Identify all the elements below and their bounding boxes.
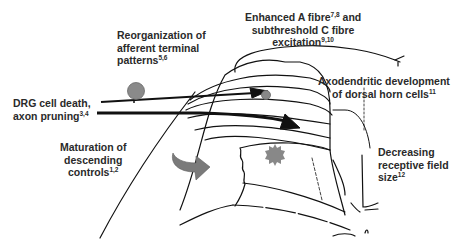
label-receptive-field: Decreasing receptive field size12 (378, 146, 449, 184)
label-line: excitation (272, 36, 321, 48)
label-line: size (378, 171, 398, 183)
label-axodendritic: Axodendritic development of dorsal horn … (318, 75, 450, 100)
label-drg-cell-death: DRG cell death, axon pruning3,4 (13, 97, 91, 122)
label-line: Axodendritic development (318, 75, 450, 88)
superficial-lamina-outline (235, 46, 400, 72)
label-line: and (340, 11, 362, 23)
label-line: descending (60, 154, 127, 167)
citation-superscript: 12 (398, 171, 405, 178)
citation-superscript: 3,4 (80, 110, 89, 117)
citation-superscript: 1,2 (109, 166, 118, 173)
label-line: controls (68, 166, 109, 178)
drg-cell-body (128, 83, 145, 100)
citation-superscript: 7,8 (331, 11, 340, 18)
afferent-fibre-a (101, 93, 255, 102)
terminal-marker (262, 91, 271, 100)
label-enhanced-fibre: Enhanced A fibre7,8 and subthreshold C f… (245, 11, 361, 49)
label-line: Enhanced A fibre (245, 11, 331, 23)
label-line: receptive field (378, 159, 449, 172)
spinal-cord-dorsal-horn-diagram (0, 0, 455, 250)
label-line: DRG cell death, (13, 97, 91, 110)
label-line: Maturation of (60, 141, 127, 154)
arrowhead (280, 114, 300, 129)
label-line: axon pruning (13, 110, 80, 122)
dorsal-horn-neuron-marker (265, 144, 285, 166)
citation-superscript: 11 (429, 88, 436, 95)
citation-superscript: 5,6 (158, 54, 167, 61)
label-line: afferent terminal (117, 42, 206, 55)
label-descending-controls: Maturation of descending controls1,2 (60, 141, 127, 179)
afferent-fibre-c (97, 113, 290, 122)
label-line: Decreasing (378, 146, 449, 159)
label-line: of dorsal horn cells (332, 88, 429, 100)
citation-superscript: 9,10 (321, 36, 334, 43)
label-line: subthreshold C fibre (245, 24, 361, 37)
label-reorganization: Reorganization of afferent terminal patt… (117, 29, 206, 67)
label-line: patterns (117, 54, 158, 66)
lamina-line (195, 126, 330, 138)
label-line: Reorganization of (117, 29, 206, 42)
